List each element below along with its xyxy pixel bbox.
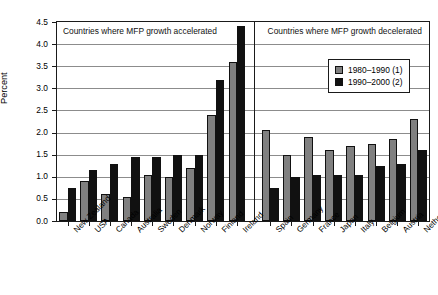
x-axis-tick-label: Spain [274, 228, 280, 234]
legend-label-series2: 1990–2000 (2) [348, 76, 402, 88]
x-axis-tick-label: Germany [295, 228, 301, 234]
legend-label-series1: 1980–1990 (1) [348, 64, 402, 76]
panel-divider [254, 22, 255, 221]
x-axis-tick-label: Ireland [241, 228, 247, 234]
panel-caption: Countries where MFP growth accelerated [63, 26, 217, 36]
bar [262, 130, 270, 221]
bar [291, 177, 299, 221]
x-axis-tick-label: USA [93, 228, 99, 234]
y-axis-tick-label: 2.5 [22, 105, 48, 115]
plot-area [56, 21, 430, 222]
bar [346, 146, 354, 221]
x-axis-tick-label: Australia [135, 228, 141, 234]
bar [68, 188, 76, 221]
x-axis-tick-label: Finland [220, 228, 226, 234]
y-axis-title: Percent [0, 72, 9, 104]
x-axis-tick-mark [376, 222, 377, 226]
chart-figure: Percent 0.00.51.01.52.02.53.03.54.04.5 C… [0, 0, 438, 295]
x-axis-tick-label: Netherlands [422, 228, 428, 234]
x-axis-tick-label: New Zealand [72, 228, 78, 234]
legend-swatch-series1 [335, 66, 343, 74]
x-axis-tick-mark [270, 222, 271, 226]
y-axis-tick-label: 4.0 [22, 39, 48, 49]
y-axis-tick-label: 1.5 [22, 149, 48, 159]
legend-item: 1990–2000 (2) [335, 76, 402, 88]
bar [59, 212, 67, 221]
bar [389, 139, 397, 221]
x-axis-tick-label: Canada [114, 228, 120, 234]
bar [237, 26, 245, 221]
x-axis-tick-mark [68, 222, 69, 226]
chart-legend: 1980–1990 (1) 1990–2000 (2) [328, 59, 410, 93]
bar [283, 155, 291, 221]
bar [270, 188, 278, 221]
bar [216, 80, 224, 222]
bar [304, 137, 312, 221]
panel-caption: Countries where MFP growth decelerated [268, 26, 422, 36]
bar [110, 164, 118, 221]
bar [325, 150, 333, 221]
bar [229, 62, 237, 221]
bar [368, 144, 376, 221]
y-axis-tick-label: 2.0 [22, 127, 48, 137]
x-axis-tick-label: Belgium [380, 228, 386, 234]
x-axis-tick-label: Austria [401, 228, 407, 234]
y-axis-tick-label: 0.0 [22, 216, 48, 226]
y-axis-tick-label: 3.5 [22, 61, 48, 71]
x-axis-tick-label: Denmark [177, 228, 183, 234]
y-axis-tick-label: 3.0 [22, 83, 48, 93]
x-axis-tick-label: Italy [359, 228, 365, 234]
y-axis-tick-label: 1.0 [22, 171, 48, 181]
bar [207, 115, 215, 221]
y-axis-tick-label: 0.5 [22, 193, 48, 203]
x-axis-tick-label: France [317, 228, 323, 234]
x-axis-tick-label: Norway [199, 228, 205, 234]
x-axis-tick-label: Japan [338, 228, 344, 234]
bar [376, 166, 384, 221]
legend-item: 1980–1990 (1) [335, 64, 402, 76]
x-axis-tick-label: Sweden [156, 228, 162, 234]
legend-swatch-series2 [335, 78, 343, 86]
y-axis-tick-label: 4.5 [22, 17, 48, 27]
bar [410, 119, 418, 221]
